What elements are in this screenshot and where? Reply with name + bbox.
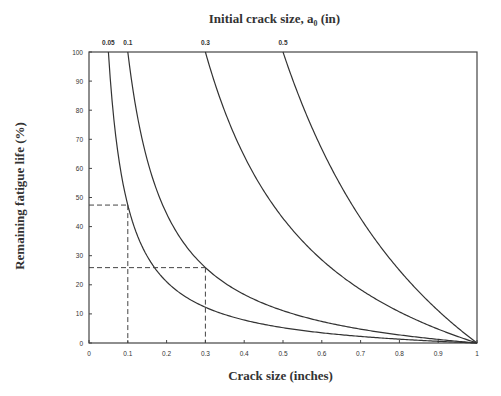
series-label: 0.1 xyxy=(123,39,132,46)
x-tick-label: 0.3 xyxy=(201,350,210,357)
y-tick-label: 40 xyxy=(76,223,84,230)
x-tick-label: 0.4 xyxy=(240,350,249,357)
y-tick-label: 50 xyxy=(76,194,84,201)
x-tick-label: 0.1 xyxy=(123,350,132,357)
chart-container: Initial crack size, a₀ (in) Remaining fa… xyxy=(0,0,501,396)
y-tick-label: 30 xyxy=(76,252,84,259)
curve-a0-0.3 xyxy=(205,52,477,343)
x-tick-label: 0.6 xyxy=(317,350,326,357)
y-tick-label: 100 xyxy=(72,49,83,56)
y-tick-label: 20 xyxy=(76,281,84,288)
x-tick-label: 0.5 xyxy=(278,350,287,357)
plot-frame xyxy=(89,52,477,343)
y-tick-label: 10 xyxy=(76,310,84,317)
x-tick-label: 0.7 xyxy=(356,350,365,357)
x-tick-label: 0 xyxy=(87,350,91,357)
x-tick-label: 0.2 xyxy=(162,350,171,357)
x-tick-label: 1 xyxy=(475,350,479,357)
x-tick-label: 0.8 xyxy=(395,350,404,357)
y-tick-label: 60 xyxy=(76,165,84,172)
curve-a0-0.5 xyxy=(283,52,477,343)
y-tick-label: 90 xyxy=(76,78,84,85)
y-tick-label: 70 xyxy=(76,136,84,143)
curve-a0-0.05 xyxy=(108,52,477,343)
y-tick-label: 0 xyxy=(79,340,83,347)
series-label: 0.3 xyxy=(201,39,210,46)
plot-area: 00.10.20.30.40.50.60.70.80.9101020304050… xyxy=(0,0,501,396)
x-tick-label: 0.9 xyxy=(434,350,443,357)
series-label: 0.5 xyxy=(278,39,287,46)
y-tick-label: 80 xyxy=(76,107,84,114)
series-label: 0.05 xyxy=(102,39,115,46)
curve-a0-0.1 xyxy=(128,52,477,343)
